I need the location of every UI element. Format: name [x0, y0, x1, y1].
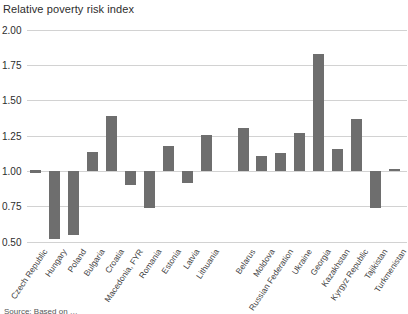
y-axis-tick-label: 1.75 [2, 60, 25, 71]
source-note: Source: Based on … [4, 307, 78, 314]
bar-georgia [313, 54, 324, 171]
bar-moldova [256, 156, 267, 172]
bar-latvia [182, 171, 193, 182]
y-axis-tick-label: 0.75 [2, 201, 25, 212]
bar-croatia [106, 116, 117, 171]
bar-estonia [163, 146, 174, 171]
bar-kyrgyz-republic [351, 119, 362, 171]
chart-title: Relative poverty risk index [3, 3, 134, 15]
bar-ukraine [294, 133, 305, 171]
y-axis-tick-label: 2.00 [2, 25, 25, 36]
y-axis-tick-label: 1.00 [2, 166, 25, 177]
y-axis-tick-label: 1.50 [2, 95, 25, 106]
bar-bulgaria [87, 152, 98, 172]
gridline [27, 100, 407, 101]
bar-tajikistan [370, 171, 381, 208]
gridline [27, 242, 407, 243]
bar-poland [68, 171, 79, 235]
gridline [27, 65, 407, 66]
bar-romania [144, 171, 155, 208]
y-axis-tick-label: 0.50 [2, 237, 25, 248]
gridline [27, 30, 407, 31]
bar-hungary [49, 171, 60, 239]
bar-turkmenistan [389, 169, 400, 172]
y-axis-tick-label: 1.25 [2, 131, 25, 142]
bar-kazakhstan [332, 149, 343, 172]
bar-belarus [238, 128, 249, 172]
bar-russian-federation [275, 153, 286, 171]
bar-czech-republic [30, 170, 41, 172]
bar-macedonia-fyr [125, 171, 136, 185]
poverty-risk-bar-chart: Relative poverty risk index 2.001.751.50… [0, 0, 408, 314]
gridline [27, 206, 407, 207]
bar-lithuania [201, 135, 212, 172]
